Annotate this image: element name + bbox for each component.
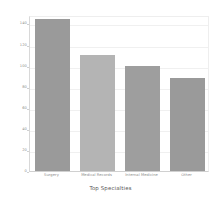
- y-axis-tick-label: 20: [7, 149, 27, 153]
- bar-medical-records[interactable]: [80, 55, 115, 171]
- y-axis-tick-label: 80: [7, 86, 27, 90]
- bar-surgery[interactable]: [35, 19, 70, 171]
- bar-internal-medicine[interactable]: [125, 66, 160, 171]
- x-axis-tick-label: Surgery: [29, 174, 74, 178]
- y-axis-tick-label: 60: [7, 107, 27, 111]
- x-axis-tick-label: Medical Records: [74, 174, 119, 178]
- y-axis-tick-label: 140: [7, 22, 27, 26]
- bars-layer: [30, 17, 208, 171]
- bar-other[interactable]: [170, 78, 205, 171]
- plot-area: [29, 16, 209, 172]
- x-axis-tick-label: Other: [164, 174, 209, 178]
- y-axis-tick-mark: [27, 172, 29, 173]
- bar-chart-figure: 020406080100120140 SurgeryMedical Record…: [0, 0, 221, 201]
- x-axis-tick-label: Internal Medicine: [119, 174, 164, 178]
- y-axis-tick-label: 0: [7, 170, 27, 174]
- y-axis-tick-label: 120: [7, 44, 27, 48]
- y-axis-tick-label: 40: [7, 128, 27, 132]
- y-axis-tick-label: 100: [7, 65, 27, 69]
- x-axis-title: Top Specialties: [0, 185, 221, 191]
